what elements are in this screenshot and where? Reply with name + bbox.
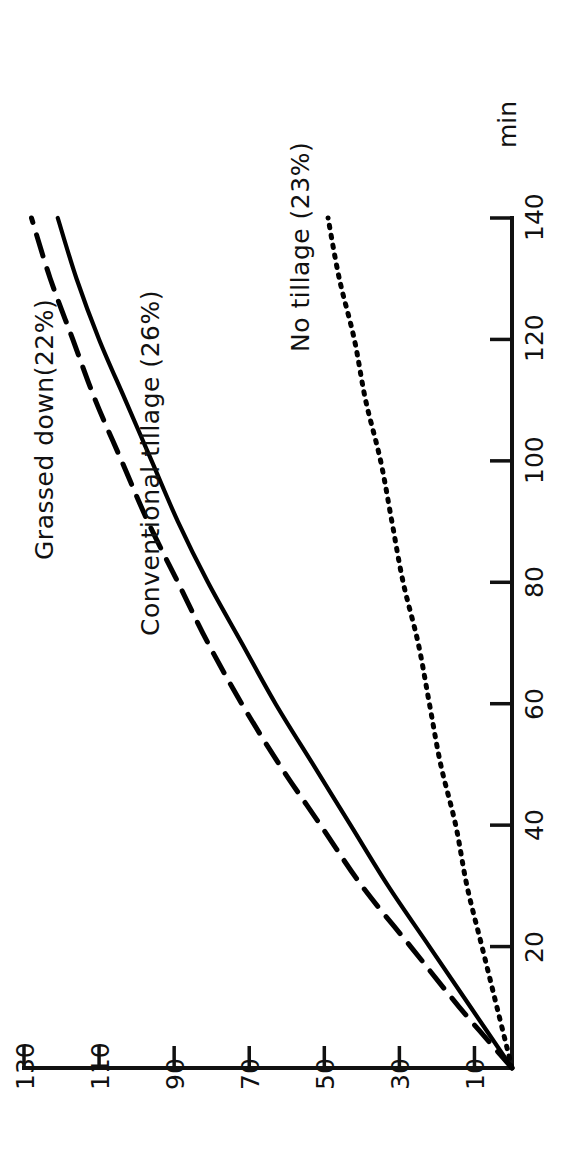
time-axis-tick-label: 60	[522, 688, 547, 720]
value-axis-tick-label: 30	[388, 1058, 413, 1090]
series-label-no-tillage: No tillage (23%)	[288, 142, 313, 352]
time-axis-tick-label: 40	[522, 809, 547, 841]
value-axis-tick-label: 110	[88, 1042, 113, 1090]
value-axis-tick-label: 50	[313, 1058, 338, 1090]
chart-figure: 1301109070503010 20406080100120140 min G…	[0, 0, 566, 1158]
time-axis-ticks	[490, 218, 512, 947]
series-label-grassed-down: Grassed down(22%)	[32, 299, 57, 560]
series-curve-conventional-tillage-26	[58, 218, 512, 1068]
time-axis-unit-label: min	[495, 101, 520, 148]
value-axis-tick-label: 10	[463, 1058, 488, 1090]
time-axis-tick-label: 80	[522, 566, 547, 598]
axis-lines	[24, 218, 512, 1068]
chart-series-group	[32, 218, 512, 1068]
series-curve-no-tillage-23	[328, 218, 512, 1068]
value-axis-tick-label: 130	[13, 1042, 38, 1090]
value-axis-tick-label: 70	[238, 1058, 263, 1090]
value-axis-tick-label: 90	[163, 1058, 188, 1090]
time-axis-tick-label: 120	[522, 315, 547, 363]
time-axis-tick-label: 100	[522, 436, 547, 484]
time-axis-tick-label: 20	[522, 931, 547, 963]
series-label-conventional-tillage: Conventional tillage (26%)	[138, 290, 163, 636]
time-axis-tick-label: 140	[522, 193, 547, 241]
chart-plot-area	[0, 0, 566, 1158]
